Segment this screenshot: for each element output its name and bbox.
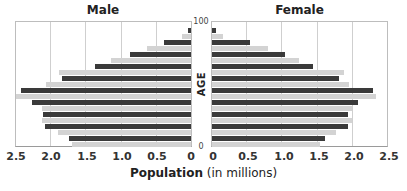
x-tick-label: 1.5 bbox=[77, 150, 97, 163]
male-bar-light bbox=[46, 82, 191, 87]
x-tick-label: 2.0 bbox=[41, 150, 61, 163]
male-bar-light bbox=[58, 130, 191, 135]
x-axis-label-bold: Population bbox=[130, 166, 203, 180]
female-bar-light bbox=[212, 70, 344, 75]
female-bar-light bbox=[212, 118, 352, 123]
female-bar-dark bbox=[212, 88, 373, 93]
male-bar-light bbox=[72, 142, 191, 147]
female-bar-dark bbox=[212, 124, 348, 129]
female-bar-light bbox=[212, 46, 268, 51]
female-title: Female bbox=[211, 3, 388, 17]
male-bar-dark bbox=[188, 28, 191, 33]
male-bar-dark bbox=[130, 52, 191, 57]
male-bar-dark bbox=[43, 112, 191, 117]
female-bar-light bbox=[212, 94, 376, 99]
male-bar-light bbox=[111, 58, 191, 63]
male-bar-light bbox=[147, 46, 191, 51]
female-panel bbox=[211, 21, 388, 147]
male-panel bbox=[15, 21, 192, 147]
male-bar-dark bbox=[95, 64, 191, 69]
female-bar-light bbox=[212, 58, 299, 63]
male-bar-dark bbox=[69, 136, 191, 141]
female-bar-dark bbox=[212, 28, 216, 33]
age-bottom-label: 0 bbox=[198, 142, 203, 151]
x-tick-label: 0 bbox=[187, 150, 195, 163]
x-tick-label: 1.0 bbox=[112, 150, 132, 163]
male-bar-dark bbox=[45, 124, 191, 129]
x-axis-label-units: (in millions) bbox=[203, 166, 277, 180]
male-bar-dark bbox=[21, 88, 191, 93]
x-tick-label: 2.5 bbox=[6, 150, 26, 163]
female-bar-dark bbox=[212, 112, 348, 117]
male-title: Male bbox=[15, 3, 191, 17]
male-bar-light bbox=[59, 70, 191, 75]
female-bar-light bbox=[212, 142, 320, 147]
male-bar-light bbox=[42, 106, 191, 111]
x-tick-label: 0.5 bbox=[147, 150, 167, 163]
x-tick-label: 0.5 bbox=[238, 150, 258, 163]
x-tick-label: 2.0 bbox=[344, 150, 364, 163]
x-tick-label: 1.0 bbox=[274, 150, 294, 163]
male-bar-dark bbox=[62, 76, 191, 81]
age-axis-label: AGE bbox=[196, 72, 207, 96]
male-bar-light bbox=[42, 118, 191, 123]
gridline bbox=[352, 22, 353, 146]
x-tick-label: 2.5 bbox=[379, 150, 399, 163]
female-bar-dark bbox=[212, 100, 358, 105]
female-bar-light bbox=[212, 106, 352, 111]
female-bar-dark bbox=[212, 40, 250, 45]
male-bar-dark bbox=[164, 40, 191, 45]
female-bar-light bbox=[212, 82, 349, 87]
male-bar-dark bbox=[32, 100, 191, 105]
female-bar-dark bbox=[212, 76, 339, 81]
female-bar-light bbox=[212, 130, 336, 135]
x-tick-label: 0 bbox=[209, 150, 217, 163]
female-bar-dark bbox=[212, 64, 313, 69]
female-bar-dark bbox=[212, 52, 285, 57]
male-bar-light bbox=[16, 94, 191, 99]
x-axis-label: Population (in millions) bbox=[0, 166, 407, 180]
age-top-label: 100 bbox=[193, 17, 208, 26]
x-tick-label: 1.5 bbox=[309, 150, 329, 163]
female-bar-dark bbox=[212, 136, 325, 141]
female-bar-light bbox=[212, 34, 223, 39]
male-bar-light bbox=[182, 34, 191, 39]
